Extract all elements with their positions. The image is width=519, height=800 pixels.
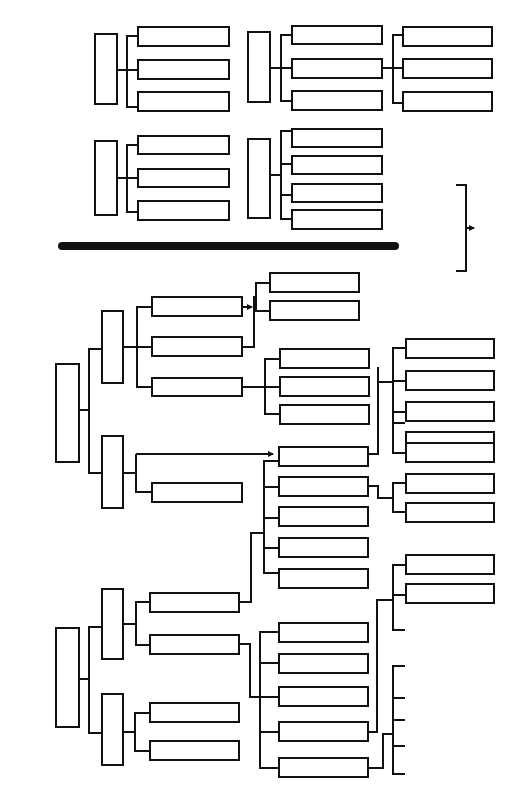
other-conditions-box <box>247 31 271 103</box>
malingering-box <box>291 25 383 45</box>
generalized-anxiety-disorder-box <box>137 26 230 47</box>
pulpal-pain-box <box>278 506 369 527</box>
posttraumatic-stress-disorder-box <box>137 59 230 80</box>
arteritis-pain-box <box>405 473 495 494</box>
ligamentous-pain-box <box>405 554 495 575</box>
anxiety-disorder-box <box>94 33 118 105</box>
episodic-pain-box <box>101 435 124 509</box>
pain-classification-diagram <box>0 0 519 800</box>
superficial-pain-box <box>101 693 124 766</box>
muscle-pain-box <box>278 757 369 778</box>
somatic-pain-box <box>55 627 80 728</box>
sympathetically-maintained-pain-box <box>151 296 243 317</box>
glandular-ocular-auricular-pain-box <box>278 568 369 589</box>
retrodiscal-pain-box <box>405 583 495 604</box>
anxiety-due-to-medical-box <box>137 91 230 112</box>
neuropathic-pain-box <box>55 363 80 463</box>
peripheral-neuritis-box <box>279 404 370 425</box>
postherpetic-neuralgia-box <box>279 348 370 369</box>
mucogingival-pain-box <box>149 702 240 723</box>
stress-related-response-box <box>402 91 493 112</box>
musculoskeletal-pain-box <box>149 634 240 655</box>
periodontal-pain-box <box>278 622 369 643</box>
conversion-disorder-box <box>291 155 383 175</box>
soft-connective-tissue-pain-box <box>278 653 369 674</box>
pain-disorder-box <box>291 183 383 203</box>
personality-traits-box <box>402 26 493 47</box>
neurovascular-pain-box <box>278 446 369 467</box>
bipolar-disorder-box <box>137 168 230 188</box>
mood-disorder-box <box>94 140 118 216</box>
cluster-headache-box <box>405 401 495 422</box>
neuritis-pain-box <box>151 377 243 397</box>
mood-due-to-medical-box <box>137 200 230 221</box>
psych-factors-box <box>291 58 383 79</box>
cutaneous-pain-box <box>149 740 240 761</box>
traumatic-neuralgia-box <box>269 272 360 293</box>
hypochondriasis-box <box>291 209 383 230</box>
deep-pain-box <box>101 588 124 660</box>
neurovascular-variants-box <box>405 442 495 463</box>
depressive-disorder-box <box>137 135 230 155</box>
undifferentiated-somatoform-box <box>291 128 383 148</box>
maladaptive-health-behavior-box <box>402 58 493 79</box>
paroxysmal-neuralgia-pain-box <box>151 482 243 503</box>
temporomandibular-joint-pain-box <box>278 721 369 742</box>
visceral-pain-box <box>149 592 240 613</box>
continuous-pain-box <box>101 310 124 384</box>
visceral-mucosal-pain-box <box>278 537 369 558</box>
herpes-zoster-box <box>279 376 370 397</box>
osseous-periosteal-pain-box <box>278 686 369 707</box>
vascular-pain-box <box>278 476 369 497</box>
somatoform-disorder-box <box>247 138 271 219</box>
carotidynia-box <box>405 502 495 523</box>
other-conditions-leaf-box <box>291 90 383 111</box>
atypical-odontalgia-box <box>269 300 360 321</box>
migraine-with-aura-box <box>405 338 495 359</box>
migraine-without-aura-box <box>405 370 495 391</box>
deafferentation-pain-box <box>151 336 243 357</box>
